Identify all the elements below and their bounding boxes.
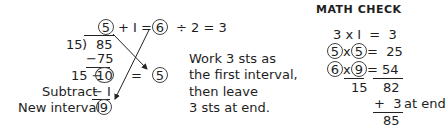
instruction-line-4: 3 sts at end. — [189, 101, 270, 115]
check-row-3-value: 54 — [382, 63, 399, 77]
math-check-title: MATH CHECK — [316, 3, 402, 16]
check-left-underline — [344, 78, 364, 79]
check-sum-right: 82 — [383, 81, 400, 95]
quotient-circle: 5 — [98, 19, 114, 35]
arrow-to-half — [113, 34, 147, 69]
subtract-value: − I — [92, 85, 111, 99]
check-times-2: x — [343, 63, 351, 77]
check-right-underline — [373, 78, 403, 79]
divide-two-text: ÷ 2 = 3 — [176, 21, 227, 35]
math-check-row-1: 3 x I = 3 — [333, 28, 397, 42]
minus-product: −75 — [86, 52, 113, 66]
new-interval-label: New interval — [18, 101, 100, 115]
check-at-end: at end — [404, 97, 446, 111]
dividend: 85 — [96, 38, 113, 52]
arrow-to-new-interval — [115, 30, 149, 99]
check-circle-6: 6 — [327, 61, 343, 77]
check-times-1: x — [343, 45, 351, 59]
check-plus-three: + 3 — [374, 97, 401, 111]
equals-sign: = — [131, 69, 142, 83]
six-circle: 6 — [152, 19, 168, 35]
check-row-3-eq: = — [367, 63, 378, 77]
check-row-2-result: = 25 — [367, 45, 403, 59]
check-sum-left: 15 — [351, 81, 368, 95]
check-circle-9: 9 — [351, 61, 367, 77]
division-bar — [84, 35, 114, 36]
subtract-label: Subtract — [42, 85, 97, 99]
division-bracket: ) — [82, 38, 87, 52]
instruction-line-2: the first interval, — [189, 68, 298, 82]
divisor: 15 — [66, 38, 83, 52]
plus-one-text: + I = — [118, 21, 152, 35]
check-circle-5b: 5 — [351, 43, 367, 59]
half-result-circle: 5 — [152, 67, 168, 83]
remainder-circle: 10 — [95, 67, 114, 83]
new-interval-circle: 9 — [96, 99, 112, 115]
check-circle-5a: 5 — [327, 43, 343, 59]
instruction-line-3: then leave — [189, 85, 258, 99]
check-total: 85 — [383, 114, 400, 128]
instruction-line-1: Work 3 sts as — [189, 52, 276, 66]
